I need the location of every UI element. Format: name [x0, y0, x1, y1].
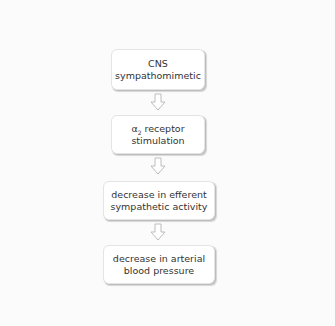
down-arrow-icon	[149, 223, 167, 241]
node-label-line: α2 receptor	[131, 123, 184, 135]
node-label-line: sympathetic activity	[111, 201, 208, 213]
node-cns-sympathomimetic: CNS sympathomimetic	[111, 49, 205, 90]
node-decrease-arterial-pressure: decrease in arterial blood pressure	[103, 245, 215, 284]
node-label-line: blood pressure	[124, 265, 194, 277]
label-rest: receptor	[141, 123, 184, 134]
node-decrease-efferent-sympathetic: decrease in efferent sympathetic activit…	[103, 181, 215, 220]
node-label-line: sympathomimetic	[115, 70, 201, 82]
node-label-line: decrease in arterial	[113, 253, 205, 265]
node-label-line: decrease in efferent	[111, 189, 206, 201]
node-alpha2-receptor-stimulation: α2 receptor stimulation	[111, 115, 205, 154]
down-arrow-icon	[149, 93, 167, 111]
node-label-line: CNS	[148, 58, 168, 70]
node-label-line: stimulation	[131, 135, 184, 147]
down-arrow-icon	[149, 157, 167, 175]
